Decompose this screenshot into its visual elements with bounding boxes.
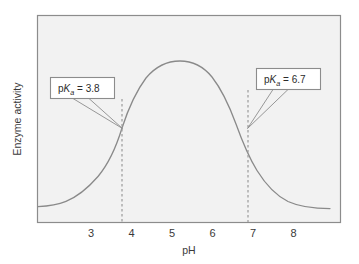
x-axis-title: pH [182, 244, 195, 256]
enzyme-activity-ph-chart: pKa = 3.8 pKa = 6.7 3 4 5 6 7 8 pH Enzym… [0, 0, 359, 264]
pka-right-value: 6.7 [292, 74, 306, 85]
x-tick-label-4: 4 [128, 227, 134, 239]
pka-right-equals: = [280, 74, 291, 85]
pka-left-value: 3.8 [86, 83, 100, 94]
x-tick-label-6: 6 [209, 227, 215, 239]
pka-left-equals: = [74, 83, 85, 94]
x-tick-label-3: 3 [88, 227, 94, 239]
x-tick-label-8: 8 [290, 227, 296, 239]
x-tick-label-5: 5 [169, 227, 175, 239]
pka-left-annotation: pKa = 3.8 [51, 78, 115, 99]
y-axis-title: Enzyme activity [11, 82, 23, 156]
chart-svg: pKa = 3.8 pKa = 6.7 3 4 5 6 7 8 pH Enzym… [0, 0, 359, 264]
x-tick-label-7: 7 [250, 227, 256, 239]
pka-right-annotation: pKa = 6.7 [257, 69, 321, 90]
